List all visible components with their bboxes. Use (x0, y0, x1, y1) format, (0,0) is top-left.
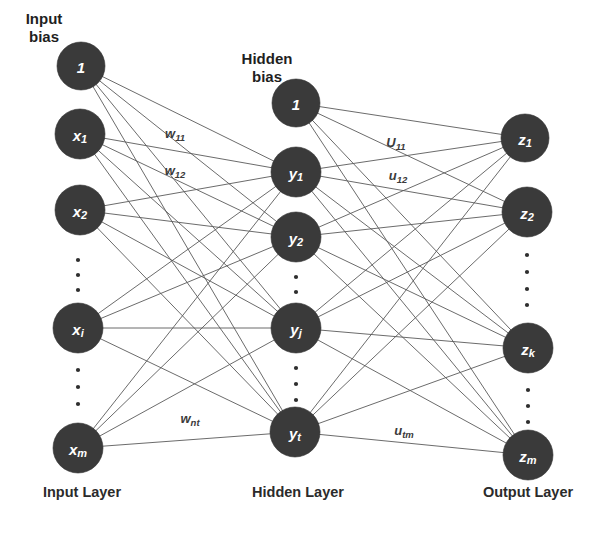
edge-input-xm-hidden-y2 (95, 254, 279, 432)
neuron-hidden-y2[interactable]: y2 (271, 212, 321, 262)
neuron-output-z2[interactable]: z2 (502, 187, 552, 237)
edge-hidden-yt-output-z2 (312, 229, 509, 416)
weight-label-wnt: wnt (180, 411, 200, 428)
edge-input-x2-hidden-y1 (104, 176, 273, 206)
edge-input-xi-hidden-y1 (98, 186, 277, 314)
hidden-bias-caption-line2: bias (252, 68, 282, 85)
ellipsis-dot-hidden-4 (294, 398, 298, 402)
input-bias-caption-line2: bias (29, 28, 59, 45)
edge-hidden-bias-output-zk (312, 120, 512, 331)
edge-hidden-bias-output-z2 (317, 113, 505, 202)
neuron-input-xi[interactable]: xi (53, 303, 103, 353)
edge-input-bias-hidden-yj (96, 84, 281, 310)
input-layer-caption: Input Layer (43, 484, 122, 500)
neuron-hidden-bias[interactable]: 1 (272, 79, 320, 127)
ellipsis-dot-output-4 (526, 388, 530, 392)
edge-input-x2-hidden-yj (101, 222, 275, 317)
edge-input-x1-hidden-y2 (102, 144, 275, 226)
edge-hidden-yj-output-z2 (317, 223, 505, 317)
edge-hidden-yt-output-z1 (310, 156, 511, 413)
weight-label-U11: U11 (386, 135, 405, 152)
edge-input-x1-hidden-yt (94, 153, 281, 412)
edge-hidden-y2-output-z1 (318, 147, 504, 227)
edge-hidden-yj-output-zk (320, 330, 504, 346)
ellipsis-dot-hidden-1 (294, 290, 298, 294)
neuron-output-z1[interactable]: z1 (501, 114, 549, 162)
neuron-input-bias[interactable]: 1 (57, 42, 105, 90)
output-layer-caption: Output Layer (483, 484, 574, 500)
edge-hidden-yj-output-z1 (314, 153, 507, 313)
edge-input-bias-hidden-y2 (99, 80, 277, 222)
ellipsis-dot-input-5 (76, 402, 80, 406)
node-group: 1x1x2xixm1y1y2yjytz1z2zkzm (53, 42, 553, 480)
ellipsis-dot-output-1 (525, 270, 529, 274)
edge-group (93, 76, 515, 452)
neuron-input-xm[interactable]: xm (53, 423, 103, 473)
weight-label-utm: utm (394, 423, 414, 440)
edge-hidden-bias-output-z1 (319, 106, 503, 134)
ellipsis-dot-hidden-0 (294, 275, 298, 279)
neuron-hidden-yj[interactable]: yj (271, 303, 321, 353)
neuron-output-zm[interactable]: zm (503, 430, 553, 480)
neuron-hidden-y1[interactable]: y1 (271, 147, 321, 197)
ellipsis-dot-hidden-3 (294, 382, 298, 386)
ellipsis-dot-input-3 (76, 368, 80, 372)
neuron-label-hidden-bias: 1 (292, 96, 300, 113)
neuron-output-zk[interactable]: zk (503, 323, 553, 373)
edge-hidden-y2-output-z2 (320, 215, 503, 235)
edge-hidden-yt-output-zk (318, 356, 506, 424)
neuron-input-x2[interactable]: x2 (55, 185, 105, 235)
ellipsis-dot-input-0 (76, 258, 80, 262)
edge-hidden-y1-output-z2 (320, 176, 504, 208)
neuron-hidden-yt[interactable]: yt (270, 407, 320, 457)
ellipsis-dot-input-1 (76, 273, 80, 277)
ellipsis-dot-hidden-2 (294, 366, 298, 370)
neuron-input-x1[interactable]: x1 (55, 109, 105, 159)
edge-input-bias-hidden-yt (93, 86, 283, 411)
edge-hidden-y1-output-z1 (320, 141, 503, 168)
ellipsis-dot-output-6 (526, 420, 530, 424)
edge-input-bias-hidden-y1 (102, 76, 275, 161)
weight-label-w12: w12 (165, 163, 186, 180)
ellipsis-dot-input-4 (76, 385, 80, 389)
edge-hidden-y2-output-zm (313, 253, 510, 438)
hidden-layer-caption: Hidden Layer (252, 484, 344, 500)
ellipsis-dot-output-5 (526, 404, 530, 408)
edge-hidden-y2-output-zk (318, 247, 507, 337)
input-bias-caption-line1: Input (26, 10, 63, 27)
ellipsis-dot-output-3 (525, 303, 529, 307)
edge-hidden-bias-output-zm (309, 122, 515, 435)
hidden-bias-caption-line1: Hidden (242, 50, 293, 67)
edge-input-xm-hidden-yt (102, 434, 271, 446)
ellipsis-dot-output-2 (525, 287, 529, 291)
ellipsis-dot-output-0 (525, 253, 529, 257)
ellipsis-dot-input-2 (76, 288, 80, 292)
network-canvas: 1x1x2xixm1y1y2yjytz1z2zkzm w11w12wntU11u… (0, 0, 596, 534)
neuron-label-input-bias: 1 (77, 59, 85, 76)
edge-input-x1-hidden-y1 (104, 138, 273, 168)
neural-network-diagram: 1x1x2xixm1y1y2yjytz1z2zkzm w11w12wntU11u… (0, 0, 596, 534)
weight-label-w11: w11 (165, 126, 185, 143)
weight-label-u12: u12 (389, 168, 408, 185)
